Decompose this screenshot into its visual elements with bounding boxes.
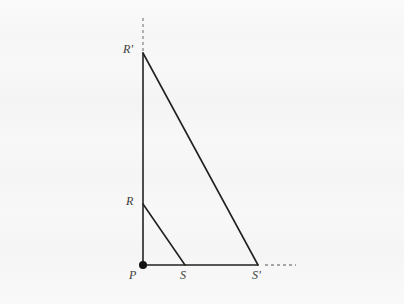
vertex-label-s-prime: S': [252, 268, 261, 283]
segment-r-prime-to-s-prime: [143, 53, 258, 265]
vertex-label-r-prime: R': [123, 42, 133, 57]
geometry-figure: R' R P S S': [0, 0, 404, 304]
vertex-label-s: S: [180, 268, 186, 283]
vertex-label-r: R: [126, 194, 134, 209]
diagram-canvas: [0, 0, 404, 304]
point-p-marker: [139, 261, 147, 269]
segment-r-to-s: [143, 204, 185, 265]
vertex-label-p: P: [129, 268, 137, 283]
